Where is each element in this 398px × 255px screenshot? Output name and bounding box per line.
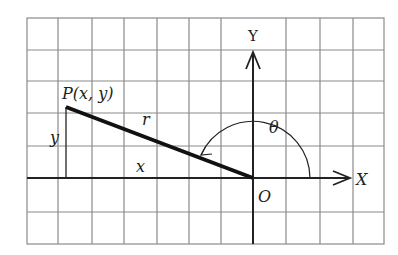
radius-segment bbox=[66, 107, 253, 178]
angle-arc bbox=[201, 121, 310, 178]
x-axis-label: X bbox=[354, 170, 368, 189]
y-leg-label: y bbox=[49, 128, 60, 147]
grid bbox=[27, 18, 384, 244]
radius-label: r bbox=[142, 110, 151, 129]
point-label: P(x, y) bbox=[61, 84, 113, 103]
x-leg-label: x bbox=[136, 157, 145, 176]
polar-diagram: P(x, y) r θ x y O X Y bbox=[0, 0, 398, 255]
y-axis-label: Y bbox=[247, 27, 259, 45]
angle-label: θ bbox=[269, 118, 279, 137]
origin-label: O bbox=[258, 187, 271, 206]
